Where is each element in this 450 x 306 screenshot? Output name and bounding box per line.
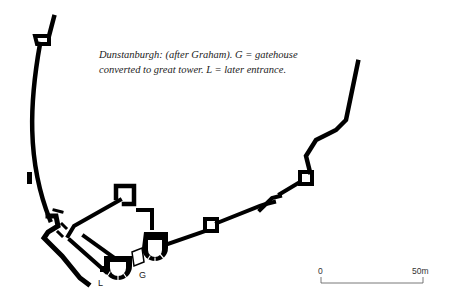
ne-curtain-wall bbox=[306, 62, 358, 172]
inner-bailey-wall bbox=[138, 210, 152, 228]
south-wall-tower-1 bbox=[205, 219, 217, 231]
label-gatehouse: G bbox=[139, 270, 146, 280]
north-inner-wall bbox=[68, 200, 120, 236]
scale-bar bbox=[321, 277, 423, 283]
west-curtain-wall bbox=[32, 17, 54, 220]
figure-caption: Dunstanburgh: (after Graham). G = gateho… bbox=[99, 47, 329, 77]
south-curtain-wall bbox=[168, 230, 208, 244]
caption-line-2: converted to great tower. L = later entr… bbox=[99, 62, 329, 77]
nw-turret bbox=[35, 36, 49, 44]
castle-plan bbox=[0, 0, 450, 306]
scale-start-label: 0 bbox=[318, 266, 323, 276]
caption-line-1: Dunstanburgh: (after Graham). G = gateho… bbox=[99, 47, 329, 62]
west-wall-turret bbox=[27, 172, 32, 184]
label-later-entrance: L bbox=[98, 278, 103, 288]
scale-end-label: 50m bbox=[412, 266, 429, 276]
gatehouse-towers bbox=[100, 232, 168, 282]
